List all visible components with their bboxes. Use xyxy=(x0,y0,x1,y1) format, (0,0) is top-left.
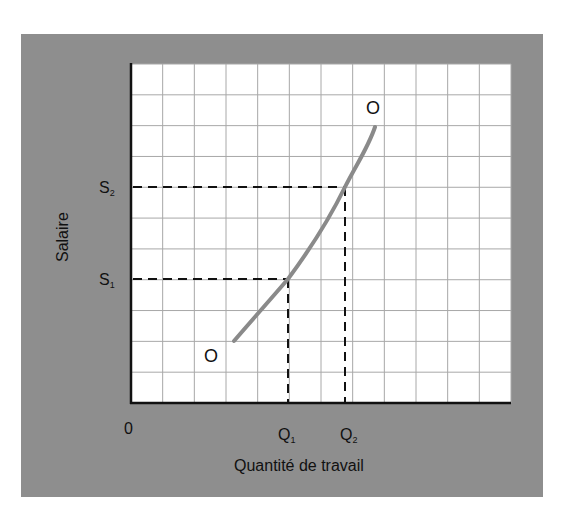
s2-tick-label: S2 xyxy=(99,179,115,198)
curve-start-label: O xyxy=(204,346,218,366)
labour-supply-chart: O O S2 S1 0 Q1 Q2 Quantité de travail Sa… xyxy=(0,0,572,526)
x-axis-title: Quantité de travail xyxy=(234,457,364,474)
q1-tick-label: Q1 xyxy=(278,426,295,445)
curve-end-label: O xyxy=(366,98,380,118)
q2-tick-label: Q2 xyxy=(340,426,357,445)
s1-tick-label: S1 xyxy=(99,271,115,290)
origin-label: 0 xyxy=(124,420,133,437)
y-axis-title: Salaire xyxy=(54,212,71,262)
